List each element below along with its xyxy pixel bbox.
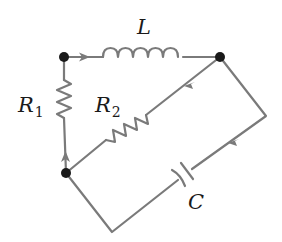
r2-branch (66, 57, 220, 173)
inductor-label: L (137, 17, 151, 38)
capacitor-branch (66, 57, 266, 232)
r1-label-subscript: 1 (35, 104, 44, 120)
r2-label-subscript: 2 (112, 104, 121, 120)
r1-branch (57, 57, 71, 173)
node-top-left (59, 52, 69, 62)
node-bottom-left (61, 168, 71, 178)
capacitor-label: C (188, 192, 204, 213)
r1-label-main: R (18, 93, 34, 117)
r2-label: R2 (95, 95, 121, 116)
r1-label: R1 (18, 95, 44, 116)
r2-label-main: R (95, 93, 111, 117)
circuit-diagram: L R1 R2 C (0, 0, 282, 242)
node-top-right (215, 52, 225, 62)
r1-resistor-zigzag (57, 80, 71, 118)
inductor-coil (103, 48, 178, 57)
inductor-branch (64, 48, 220, 62)
capacitor-plate-flat (181, 163, 193, 179)
